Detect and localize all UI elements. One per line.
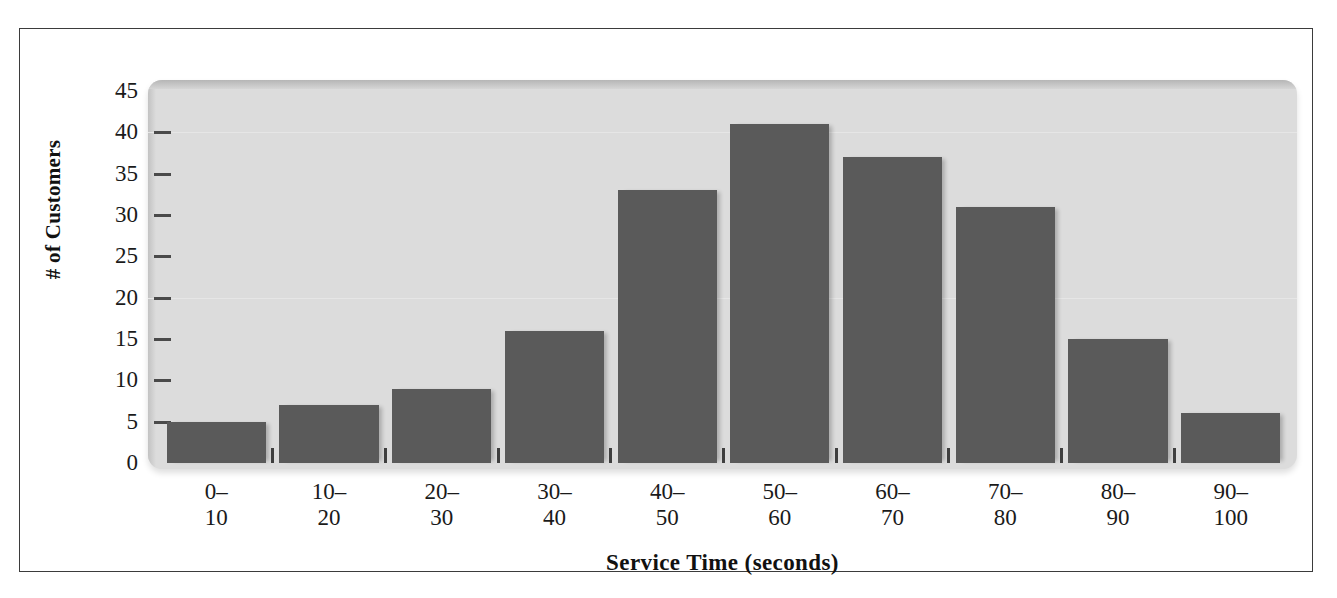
x-axis-tick-label: 30–40 (498, 479, 611, 532)
x-axis-tick-label-line1: 0– (160, 479, 273, 505)
x-axis-tick-label: 40–50 (611, 479, 724, 532)
x-axis-tick-label-line2: 90 (1062, 505, 1175, 531)
y-axis-tick-labels: 051015202530354045 (90, 63, 138, 483)
x-axis-tick-label-line2: 70 (836, 505, 949, 531)
x-axis-tick-label-line1: 30– (498, 479, 611, 505)
bar (392, 389, 491, 463)
x-axis-tick-label-line2: 60 (724, 505, 837, 531)
x-axis-tick-label-line1: 50– (724, 479, 837, 505)
x-axis-tick-label-line2: 80 (949, 505, 1062, 531)
x-axis-title: Service Time (seconds) (148, 550, 1297, 576)
y-axis-tick-mark (154, 379, 171, 382)
plot-panel (148, 80, 1297, 469)
bar (730, 124, 829, 463)
y-axis-tick-mark (154, 297, 171, 300)
x-axis-tick-label-line2: 100 (1174, 505, 1287, 531)
x-axis-tick-label: 90–100 (1174, 479, 1287, 532)
x-axis-tick-mark (271, 448, 274, 463)
bar (505, 331, 604, 463)
bar (843, 157, 942, 463)
bar (956, 207, 1055, 463)
bar (1068, 339, 1167, 463)
bar (279, 405, 378, 463)
bar (618, 190, 717, 463)
panel-top-shade (148, 80, 1297, 89)
y-axis-tick-mark (154, 255, 171, 258)
x-axis-tick-mark (1173, 448, 1176, 463)
x-axis-tick-label-line2: 40 (498, 505, 611, 531)
y-axis-tick-mark (154, 338, 171, 341)
x-axis-tick-label-line1: 40– (611, 479, 724, 505)
x-axis-tick-label: 60–70 (836, 479, 949, 532)
x-axis-tick-label-line1: 10– (273, 479, 386, 505)
gridline (148, 298, 1297, 299)
y-axis-tick-label: 5 (90, 410, 138, 433)
x-axis-tick-mark (1060, 448, 1063, 463)
y-axis-tick-mark (154, 214, 171, 217)
x-axis-tick-label-line1: 60– (836, 479, 949, 505)
y-axis-tick-mark (154, 131, 171, 134)
x-axis-tick-labels: 0–1010–2020–3030–4040–5050–6060–7070–808… (148, 479, 1297, 549)
x-axis-tick-label: 80–90 (1062, 479, 1175, 532)
y-axis-title: # of Customers (41, 115, 66, 305)
y-axis-tick-label: 20 (90, 286, 138, 309)
x-axis-tick-label-line2: 50 (611, 505, 724, 531)
x-axis-tick-mark (722, 448, 725, 463)
y-axis-tick-label: 35 (90, 162, 138, 185)
y-axis-tick-label: 15 (90, 327, 138, 350)
y-axis-tick-label: 45 (90, 79, 138, 102)
x-axis-tick-label: 20–30 (385, 479, 498, 532)
y-axis-tick-label: 30 (90, 203, 138, 226)
bar (167, 422, 266, 463)
y-axis-tick-mark (154, 173, 171, 176)
y-axis-tick-label: 10 (90, 368, 138, 391)
x-axis-tick-label: 50–60 (724, 479, 837, 532)
x-axis-tick-label-line1: 20– (385, 479, 498, 505)
x-axis-tick-label-line2: 30 (385, 505, 498, 531)
x-axis-tick-mark (497, 448, 500, 463)
panel-left-shade (148, 80, 156, 469)
x-axis-tick-label: 0–10 (160, 479, 273, 532)
x-axis-tick-label-line2: 20 (273, 505, 386, 531)
x-axis-tick-label: 10–20 (273, 479, 386, 532)
x-axis-tick-mark (609, 448, 612, 463)
x-axis-tick-label-line1: 80– (1062, 479, 1175, 505)
y-axis-tick-label: 40 (90, 120, 138, 143)
x-axis-tick-label-line1: 70– (949, 479, 1062, 505)
x-axis-tick-mark (835, 448, 838, 463)
x-axis-tick-label-line2: 10 (160, 505, 273, 531)
x-axis-tick-label: 70–80 (949, 479, 1062, 532)
x-axis-tick-mark (384, 448, 387, 463)
figure-frame: # of Customers 051015202530354045 0–1010… (19, 28, 1313, 572)
y-axis-tick-label: 0 (90, 451, 138, 474)
chart-page: # of Customers 051015202530354045 0–1010… (0, 0, 1337, 598)
gridline (148, 132, 1297, 133)
x-axis-tick-mark (947, 448, 950, 463)
x-axis-tick-label-line1: 90– (1174, 479, 1287, 505)
bar (1181, 413, 1280, 463)
y-axis-tick-label: 25 (90, 244, 138, 267)
